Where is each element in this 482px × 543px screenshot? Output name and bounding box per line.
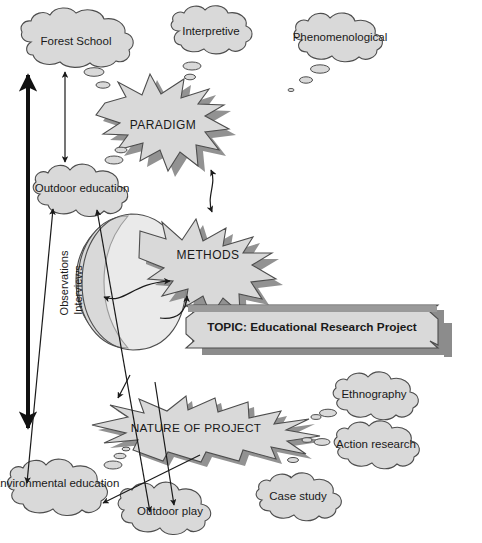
cloud-label-action-research: Action research [336, 438, 416, 450]
thought-bubble-tiny [288, 458, 299, 463]
thought-bubble-small [105, 156, 123, 164]
starburst-label-nature-of-project: NATURE OF PROJECT [131, 421, 262, 435]
thought-bubble-tiny [122, 447, 130, 451]
cloud-label-outdoor-play: Outdoor play [137, 505, 203, 517]
crescent-label-observations: Observations [58, 250, 70, 315]
thought-bubble-smaller [302, 438, 312, 443]
thought-bubble-small [104, 461, 122, 469]
thought-bubble-small [311, 65, 330, 73]
topic-banner-label: TOPIC: Educational Research Project [207, 320, 417, 334]
thought-bubble-smaller [300, 77, 313, 83]
thought-bubble-smaller [115, 147, 127, 153]
starburst-label-paradigm: PARADIGM [130, 118, 196, 132]
topic-banner: TOPIC: Educational Research Project [186, 305, 452, 357]
thought-bubble-small [183, 62, 201, 70]
crescent-label-interviews: Interviews [72, 265, 84, 315]
thought-bubble-small [314, 439, 330, 446]
thought-bubble-smaller [185, 74, 196, 80]
cloud-label-forest-school: Forest School [41, 35, 112, 47]
thought-bubble-tiny [288, 88, 294, 91]
diagram-canvas: Forest School Interpretive Phenomenologi… [0, 0, 482, 543]
starburst-label-methods: METHODS [177, 248, 240, 262]
cloud-label-interpretive: Interpretive [182, 25, 240, 37]
cloud-label-case-study: Case study [269, 490, 327, 502]
topic-banner-top-band [188, 306, 437, 312]
cloud-label-environmental-education: Environmental education [0, 477, 119, 489]
concept-map-svg: Forest School Interpretive Phenomenologi… [0, 0, 482, 543]
thought-bubble-small [320, 409, 337, 417]
cloud-label-ethnography: Ethnography [341, 388, 406, 400]
cloud-label-outdoor-education: Outdoor education [35, 182, 130, 194]
thought-bubble-smaller [114, 453, 126, 458]
cloud-label-phenomenological: Phenomenological [293, 31, 388, 43]
thought-bubble-smaller [311, 415, 321, 420]
